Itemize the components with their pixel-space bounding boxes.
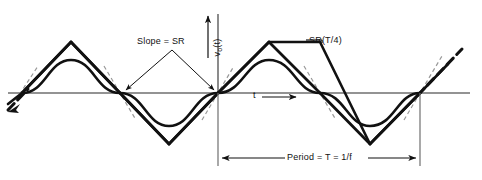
- waveform-dashed-extensions: [8, 49, 462, 110]
- peak-amplitude-label: SR(T/4): [309, 35, 342, 45]
- slope-label: Slope = SR: [137, 36, 185, 46]
- voltage-axis-label: vo(t): [212, 30, 223, 66]
- time-axis-label: t: [253, 90, 256, 100]
- voltage-axis-label-main: v: [212, 52, 222, 57]
- period-label: Period = T = 1/f: [287, 152, 352, 162]
- slope-tangent-dashed-lines: [8, 56, 442, 120]
- slope-leader-lines: [126, 50, 214, 90]
- voltage-axis-label-subscript: o: [216, 48, 223, 52]
- voltage-axis-label-tail: (t): [212, 39, 222, 48]
- waveform-diagram-canvas: [0, 0, 482, 180]
- slew-rate-waveform-figure: Slope = SR SR(T/4) t Period = T = 1/f vo…: [0, 0, 482, 180]
